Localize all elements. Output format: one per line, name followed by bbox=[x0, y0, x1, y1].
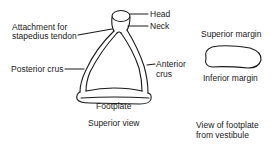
label-footplate: Footplate bbox=[96, 101, 131, 111]
label-anterior-line1: Anterior bbox=[156, 59, 186, 69]
stapes-neck bbox=[112, 17, 130, 31]
caption-footplate-line1: View of footplate bbox=[196, 120, 259, 130]
leader-attachment bbox=[78, 29, 112, 35]
label-inferior-margin: Inferior margin bbox=[203, 73, 258, 83]
label-posterior-crus: Posterior crus bbox=[11, 64, 63, 74]
label-superior-margin: Superior margin bbox=[201, 29, 261, 39]
caption-footplate-line2: from vestibule bbox=[196, 130, 249, 140]
label-anterior-line2: crus bbox=[156, 69, 172, 79]
leader-anterior bbox=[147, 64, 155, 65]
anterior-crus bbox=[127, 30, 148, 93]
label-head: Head bbox=[150, 9, 170, 19]
stapes-head bbox=[112, 11, 130, 22]
label-attachment-line2: stapedius tendon bbox=[12, 31, 77, 41]
posterior-crus bbox=[80, 31, 114, 92]
label-neck: Neck bbox=[150, 21, 169, 31]
caption-superior-view: Superior view bbox=[88, 118, 140, 128]
footplate-oval bbox=[206, 46, 261, 68]
